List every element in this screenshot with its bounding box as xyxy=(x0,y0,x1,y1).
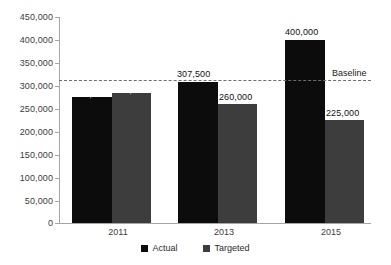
y-axis-tick-label: 50,000 xyxy=(1,197,53,206)
data-label-targeted-2013: 260,000 xyxy=(219,92,252,102)
baseline-line xyxy=(59,80,371,81)
bar-chart: 450,000 400,000 350,000 300,000 250,000 … xyxy=(0,0,391,265)
y-axis-tick-50000: 50,000 xyxy=(0,197,53,206)
x-axis-label-2011: 2011 xyxy=(72,227,164,237)
y-axis-tick-label: 200,000 xyxy=(1,128,53,137)
legend-label: Actual xyxy=(152,243,177,253)
legend-swatch-icon xyxy=(203,245,210,252)
y-axis-tick-label: 150,000 xyxy=(1,151,53,160)
data-label-targeted-2011: 285,000 xyxy=(114,85,147,95)
y-axis-tick-400000: 400,000 xyxy=(0,36,53,45)
legend-swatch-icon xyxy=(141,245,148,252)
y-axis-tick-0: 0 xyxy=(0,219,53,228)
x-axis-label-2013: 2013 xyxy=(178,227,270,237)
legend-item-actual[interactable]: Actual xyxy=(141,243,177,253)
data-label-actual-2015: 400,000 xyxy=(285,27,318,37)
data-label-actual-2013: 307,500 xyxy=(177,69,210,79)
bar-actual-2015[interactable] xyxy=(285,40,325,223)
data-label-actual-2011: 276,325 xyxy=(74,89,107,99)
legend-item-targeted[interactable]: Targeted xyxy=(203,243,249,253)
x-axis-label-2015: 2015 xyxy=(285,227,377,237)
bar-actual-2011[interactable] xyxy=(72,97,112,223)
baseline-label: Baseline xyxy=(332,68,367,78)
y-axis-tick-label: 400,000 xyxy=(1,36,53,45)
y-axis-tick-label: 450,000 xyxy=(1,13,53,22)
plot-area xyxy=(59,17,370,223)
y-axis-tick-label: 250,000 xyxy=(1,105,53,114)
y-axis-tick-label: 300,000 xyxy=(1,82,53,91)
chart-legend: Actual Targeted xyxy=(0,243,391,253)
y-axis-tick-350000: 350,000 xyxy=(0,59,53,68)
y-axis-tick-label: 0 xyxy=(1,219,53,228)
y-axis-tick-150000: 150,000 xyxy=(0,151,53,160)
y-axis-tick-200000: 200,000 xyxy=(0,128,53,137)
y-axis-tick-250000: 250,000 xyxy=(0,105,53,114)
y-axis-tick-300000: 300,000 xyxy=(0,82,53,91)
x-axis-line xyxy=(59,223,371,224)
y-axis-tick-label: 100,000 xyxy=(1,174,53,183)
y-axis-tick-450000: 450,000 xyxy=(0,13,53,22)
bar-targeted-2015[interactable] xyxy=(325,120,364,223)
bar-actual-2013[interactable] xyxy=(178,82,218,223)
data-label-targeted-2015: 225,000 xyxy=(326,108,359,118)
legend-label: Targeted xyxy=(214,243,249,253)
y-axis-tick-100000: 100,000 xyxy=(0,174,53,183)
bar-targeted-2011[interactable] xyxy=(112,93,151,223)
y-axis-tick-label: 350,000 xyxy=(1,59,53,68)
bar-targeted-2013[interactable] xyxy=(218,104,257,223)
